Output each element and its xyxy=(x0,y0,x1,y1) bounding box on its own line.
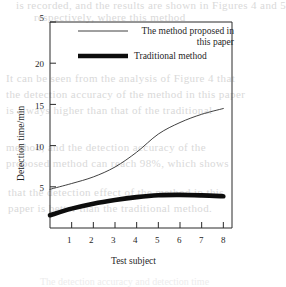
y-tick-label: 20 xyxy=(22,59,44,69)
x-tick-label: 5 xyxy=(155,235,160,245)
series-line-traditional-method xyxy=(50,195,223,215)
x-tick-label: 3 xyxy=(111,235,116,245)
x-tick-label: 4 xyxy=(133,235,138,245)
x-tick-label: 8 xyxy=(221,235,226,245)
legend-entry-traditional-method: Traditional method xyxy=(134,51,207,62)
y-axis-title: Detection time/min xyxy=(16,106,26,181)
x-axis-title: Test subject xyxy=(111,256,156,266)
figure-caption: The detection accuracy and detection tim… xyxy=(40,276,209,287)
x-tick-label: 1 xyxy=(67,235,72,245)
x-tick-label: 6 xyxy=(177,235,182,245)
y-tick-label: 5 xyxy=(22,183,44,193)
x-tick-label: 2 xyxy=(89,235,94,245)
legend-entry-proposed-method: The method proposed in this paper xyxy=(134,26,234,48)
legend-markers xyxy=(78,31,128,56)
y-axis-ticks xyxy=(50,22,56,187)
chart-series xyxy=(50,109,223,216)
series-line-proposed-method xyxy=(50,109,223,190)
x-axis-ticks xyxy=(72,222,224,228)
x-tick-label: 7 xyxy=(199,235,204,245)
y-tick-label: 5 xyxy=(22,13,44,23)
